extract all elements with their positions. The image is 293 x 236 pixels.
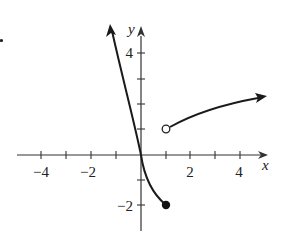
y-axis: 4 −2 y (117, 21, 145, 231)
y-axis-label: y (126, 21, 135, 37)
x-axis-label: x (261, 157, 269, 173)
x-tick-label-neg2: −2 (80, 164, 96, 180)
y-tick-label-neg2: −2 (117, 198, 133, 214)
function-graph: −4 −2 2 4 x 4 −2 y (0, 0, 293, 236)
open-endpoint (162, 125, 170, 133)
problem-marker-dot (0, 39, 3, 42)
right-curve (170, 98, 258, 127)
closed-endpoint (162, 201, 170, 209)
x-tick-label-neg4: −4 (33, 164, 49, 180)
x-tick-label-4: 4 (235, 164, 243, 180)
x-tick-label-2: 2 (186, 164, 194, 180)
left-curve-arrowhead (106, 24, 116, 37)
y-tick-label-4: 4 (126, 45, 134, 61)
left-curve (112, 31, 166, 205)
